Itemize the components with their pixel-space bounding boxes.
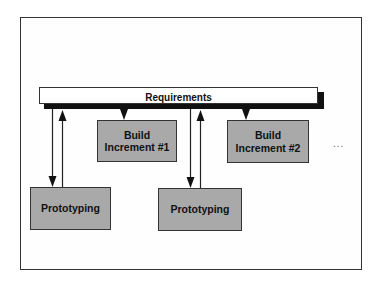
prototyping-1-box: Prototyping [30, 187, 111, 230]
build-increment-1-box: Build Increment #1 [97, 120, 177, 162]
diagram-frame [20, 17, 362, 270]
requirements-box: Requirements [39, 87, 318, 104]
prototyping-1-label: Prototyping [41, 202, 100, 214]
prototyping-2-label: Prototyping [171, 203, 230, 215]
build-increment-1-line2: Increment #1 [105, 141, 170, 153]
continuation-ellipsis: ... [333, 138, 344, 149]
prototyping-2-box: Prototyping [158, 188, 242, 231]
build-increment-2-line2: Increment #2 [236, 142, 301, 154]
build-increment-2-line1: Build [255, 129, 281, 141]
build-increment-1-line1: Build [124, 129, 150, 141]
build-increment-2-box: Build Increment #2 [227, 120, 309, 163]
requirements-label: Requirements [145, 92, 212, 103]
